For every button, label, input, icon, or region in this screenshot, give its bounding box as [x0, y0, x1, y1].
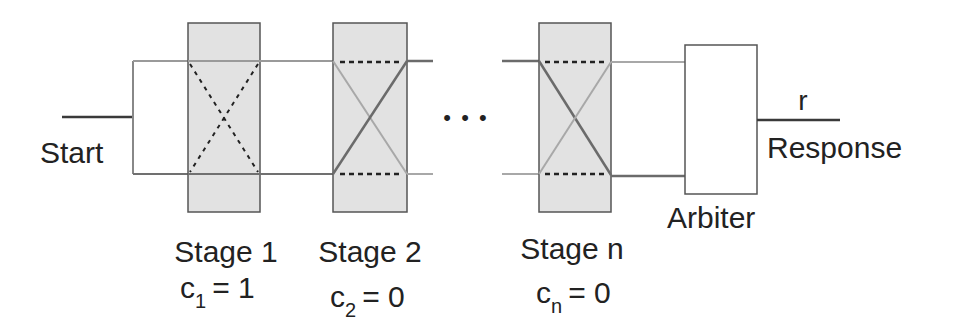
svg-text:cn= 0: cn= 0: [536, 276, 611, 317]
response-symbol-r: r: [798, 85, 807, 116]
challenge-c1: c1= 1: [180, 271, 255, 312]
start-label: Start: [40, 136, 104, 169]
arbiter-box: [685, 45, 757, 194]
response-label: Response: [767, 131, 902, 164]
stage-2: [333, 23, 407, 212]
stage-n: [539, 23, 611, 212]
arbiter-puf-diagram: • • • Start r Response Arbiter Stage 1 S…: [0, 0, 957, 334]
arbiter-label: Arbiter: [667, 201, 755, 234]
stage-2-label: Stage 2: [318, 235, 421, 268]
svg-text:c2= 0: c2= 0: [330, 280, 405, 321]
stage-n-label: Stage n: [520, 232, 623, 265]
ellipsis-label: • • •: [443, 105, 488, 130]
stage-1: [188, 23, 260, 212]
svg-text:c1= 1: c1= 1: [180, 271, 255, 312]
stage-1-label: Stage 1: [174, 235, 277, 268]
challenge-cn: cn= 0: [536, 276, 611, 317]
challenge-c2: c2= 0: [330, 280, 405, 321]
